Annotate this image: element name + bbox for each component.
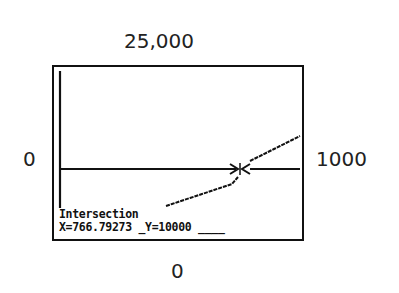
ymax-label: 25,000 [124,31,194,51]
intersection-values: X=766.79273 _Y=10000 ____ [59,222,225,234]
increasing-line-y2-upper [250,136,300,161]
xmax-label: 1000 [316,149,367,169]
ymin-label: 0 [171,261,184,281]
xmin-label: 0 [23,149,36,169]
calculator-screen: Intersection X=766.79273 _Y=10000 ____ [52,65,304,241]
increasing-line-y2-lower [166,177,238,206]
intersection-title: Intersection [59,209,138,221]
intersection-cursor-right [242,164,250,174]
